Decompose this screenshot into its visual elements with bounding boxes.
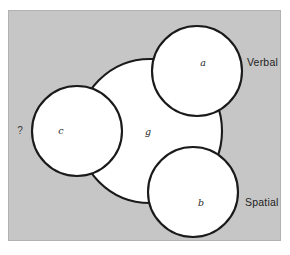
- label-b: b: [198, 197, 204, 208]
- circle-b: [148, 147, 238, 237]
- figure-canvas: g a b c Verbal Spatial ?: [0, 0, 290, 255]
- label-c: c: [58, 125, 64, 136]
- annotation-verbal: Verbal: [247, 56, 278, 68]
- circle-a: [152, 26, 242, 116]
- label-g: g: [145, 126, 151, 137]
- annotation-spatial: Spatial: [245, 196, 279, 208]
- query-mark: ?: [17, 125, 23, 136]
- venn-diagram: g a b c Verbal Spatial ?: [0, 0, 290, 255]
- label-a: a: [200, 57, 206, 68]
- circle-c: [32, 86, 122, 176]
